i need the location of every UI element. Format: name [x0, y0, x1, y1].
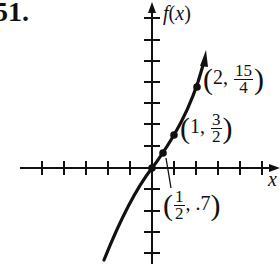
- leader-line: [166, 158, 171, 188]
- y-axis-label: f(x): [163, 2, 191, 25]
- point-label-half: (12, .7): [163, 188, 221, 222]
- y-axis-arrow-icon: [148, 2, 156, 13]
- point-label-2: (2, 154): [203, 62, 264, 96]
- function-curve: [104, 62, 204, 260]
- point-label-1: (1, 32): [180, 111, 233, 145]
- graph-canvas: [0, 0, 280, 275]
- x-axis-label: x: [268, 168, 277, 191]
